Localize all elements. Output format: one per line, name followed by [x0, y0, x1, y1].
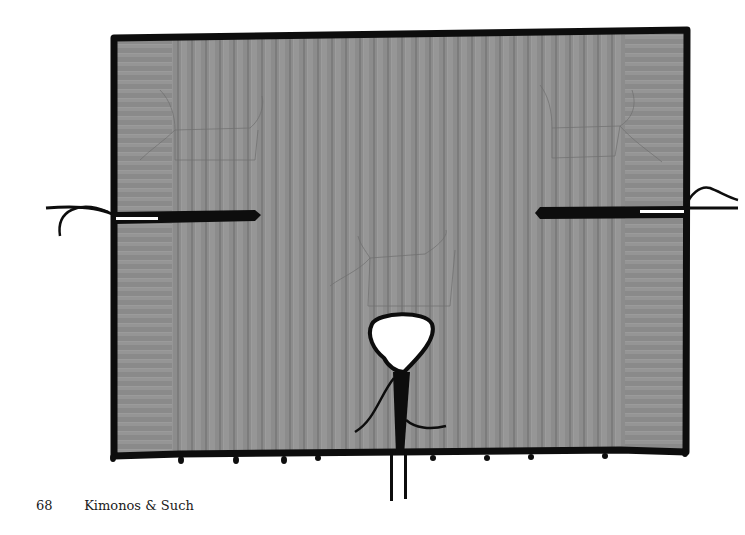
running-title: Kimonos & Such [84, 498, 194, 513]
page-caption: 68 Kimonos & Such [36, 498, 194, 513]
page-number: 68 [36, 498, 80, 513]
garment-photo [0, 0, 745, 510]
